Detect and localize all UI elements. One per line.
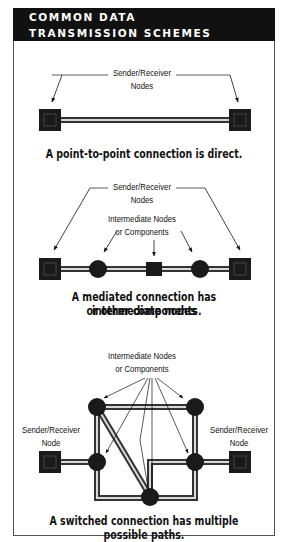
intermediate-node-1 [89, 260, 107, 278]
p2p-label-line1: Sender/Receiver [101, 67, 183, 79]
switch-node-top-left [88, 398, 106, 416]
switch-node-mid-left [88, 453, 106, 471]
receiver-node-right [229, 258, 251, 280]
switched-caption: A switched connection has multiple possi… [37, 514, 252, 542]
p2p-caption: A point-to-point connection is direct. [37, 147, 252, 161]
switched-right-label-line1: Sender/Receiver [204, 424, 275, 436]
sender-node-left [39, 451, 61, 473]
mediated-label-line1: Sender/Receiver [101, 181, 183, 193]
intermediate-node-2 [191, 260, 209, 278]
sender-node-left [39, 258, 61, 280]
switch-node-mid-right [186, 453, 204, 471]
mediated-caption-line2: or other components. [37, 304, 252, 318]
receiver-node-right [229, 109, 251, 131]
switched-intermediate-line2: or Components [101, 363, 183, 375]
switch-node-top-right [186, 398, 204, 416]
p2p-label-line2: Nodes [101, 80, 183, 92]
switched-left-label-line1: Sender/Receiver [16, 424, 87, 436]
mediated-label-line2: Nodes [101, 194, 183, 206]
intermediate-component [146, 262, 162, 276]
mediated-intermediate-line1: Intermediate Nodes [101, 213, 183, 225]
sender-node-left [39, 109, 61, 131]
receiver-node-right [229, 451, 251, 473]
switched-left-label-line2: Node [16, 437, 87, 449]
switch-node-bottom [141, 488, 159, 506]
switched-intermediate-line1: Intermediate Nodes [101, 350, 183, 362]
switched-right-label-line2: Node [204, 437, 275, 449]
mediated-intermediate-line2: or Components [101, 226, 183, 238]
